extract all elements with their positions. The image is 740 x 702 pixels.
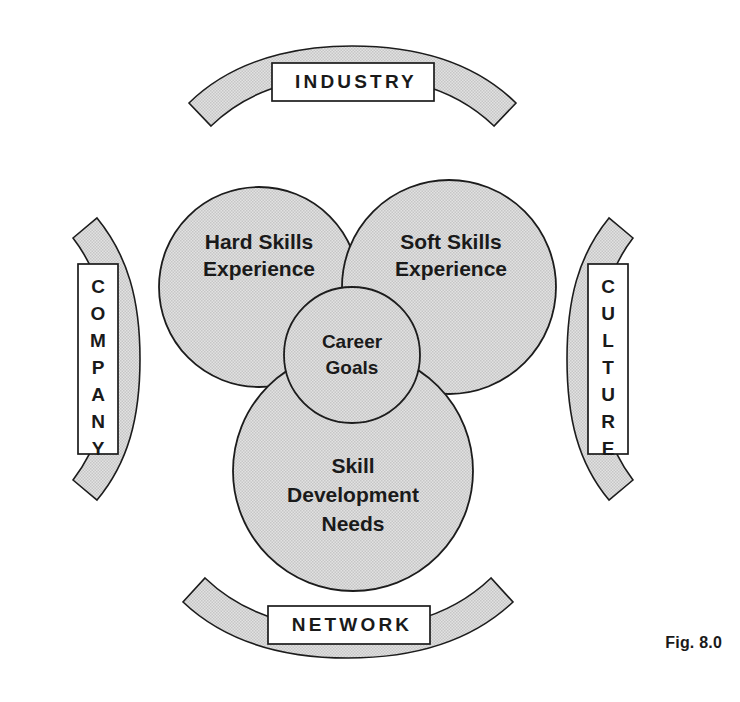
- band-company-letter: P: [92, 357, 105, 378]
- circle-hard-skills-label: Hard Skills: [205, 230, 314, 253]
- band-industry-label: INDUSTRY: [295, 71, 417, 92]
- band-culture-letter: T: [602, 357, 614, 378]
- circle-career-goals[interactable]: Career Goals: [284, 287, 420, 423]
- circle-career-goals-shape: [284, 287, 420, 423]
- band-company-letter: Y: [92, 438, 105, 459]
- band-culture-letter: U: [601, 303, 615, 324]
- band-company-letter: C: [91, 276, 105, 297]
- band-culture-letter: E: [602, 438, 615, 459]
- circle-skill-development-label: Needs: [321, 512, 384, 535]
- band-culture-letter: C: [601, 276, 615, 297]
- band-culture-label: C U L T U R E: [601, 276, 615, 459]
- circle-skill-development-label: Skill: [331, 454, 374, 477]
- circle-soft-skills-label: Soft Skills: [400, 230, 502, 253]
- circle-hard-skills-label: Experience: [203, 257, 315, 280]
- band-culture-letter: R: [601, 411, 615, 432]
- band-company-letter: A: [91, 384, 105, 405]
- band-culture-letter: U: [601, 384, 615, 405]
- circle-career-goals-label: Goals: [326, 357, 379, 378]
- band-company-letter: M: [90, 330, 106, 351]
- circle-skill-development-label: Development: [287, 483, 419, 506]
- figure-caption: Fig. 8.0: [665, 634, 722, 652]
- band-company-label: C O M P A N Y: [90, 276, 106, 459]
- figure-root: INDUSTRY C O M P A N Y C U L T: [0, 0, 740, 702]
- band-culture[interactable]: C U L T U R E: [567, 218, 633, 500]
- circle-soft-skills-label: Experience: [395, 257, 507, 280]
- band-company-letter: O: [91, 303, 106, 324]
- band-company-letter: N: [91, 411, 105, 432]
- band-culture-letter: L: [602, 330, 614, 351]
- circle-career-goals-label: Career: [322, 331, 383, 352]
- band-industry[interactable]: INDUSTRY: [189, 46, 516, 126]
- career-framework-diagram: INDUSTRY C O M P A N Y C U L T: [0, 0, 740, 702]
- band-network-label: NETWORK: [292, 614, 413, 635]
- band-company[interactable]: C O M P A N Y: [73, 218, 140, 500]
